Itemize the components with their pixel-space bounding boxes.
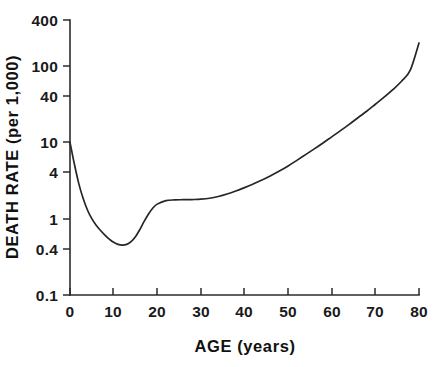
- x-tick-label: 70: [366, 303, 384, 320]
- y-tick-label: 400: [32, 12, 58, 29]
- death-rate-curve: [70, 43, 419, 245]
- x-tick-label: 80: [410, 303, 428, 320]
- x-tick-label: 30: [192, 303, 210, 320]
- x-axis-tick-labels: 0 10 20 30 40 50 60 70 80: [66, 303, 428, 320]
- x-tick-label: 40: [235, 303, 253, 320]
- x-tick-label: 10: [104, 303, 122, 320]
- y-axis-ticks: [63, 20, 70, 295]
- x-tick-label: 60: [323, 303, 341, 320]
- y-tick-label: 1: [49, 211, 58, 228]
- y-tick-label: 10: [40, 134, 58, 151]
- x-axis-title: AGE (years): [194, 337, 295, 355]
- y-tick-label: 4: [49, 164, 58, 181]
- chart-svg: 400 100 40 10 4 1 0.4 0.1 0 10 20 30 40 …: [0, 0, 439, 367]
- x-tick-label: 50: [279, 303, 297, 320]
- y-tick-label: 100: [32, 58, 58, 75]
- y-tick-label: 0.1: [36, 287, 58, 304]
- y-tick-label: 40: [40, 88, 58, 105]
- y-tick-label: 0.4: [36, 241, 58, 258]
- y-axis-tick-labels: 400 100 40 10 4 1 0.4 0.1: [32, 12, 59, 304]
- y-axis-title: DEATH RATE (per 1,000): [3, 55, 21, 259]
- x-tick-label: 0: [66, 303, 75, 320]
- x-axis-ticks: [70, 288, 419, 295]
- x-tick-label: 20: [148, 303, 166, 320]
- chart-figure: 400 100 40 10 4 1 0.4 0.1 0 10 20 30 40 …: [0, 0, 439, 367]
